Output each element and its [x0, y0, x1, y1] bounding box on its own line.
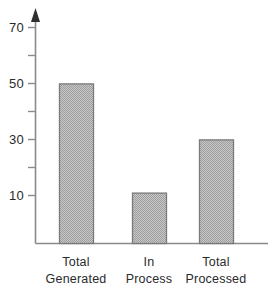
- x-axis-category-labels: Total Generated In Process Total Process…: [46, 255, 247, 286]
- y-tick-label-70: 70: [9, 20, 24, 35]
- category-label-2-line2: Processed: [186, 272, 247, 286]
- y-axis: [31, 8, 40, 244]
- y-tick-label-10: 10: [9, 188, 24, 203]
- y-tick-label-30: 30: [9, 132, 24, 147]
- bar-in-process[interactable]: [133, 193, 167, 243]
- bar-series: [60, 84, 234, 244]
- category-label-1-line1: In: [144, 255, 155, 269]
- bar-chart: 70 50 30 10 Total Generated In Process T…: [0, 0, 272, 291]
- y-tick-label-50: 50: [9, 76, 24, 91]
- category-label-2-line1: Total: [202, 255, 229, 269]
- y-axis-tick-labels: 70 50 30 10: [9, 20, 24, 203]
- bar-total-generated[interactable]: [60, 84, 94, 244]
- category-label-0-line1: Total: [62, 255, 89, 269]
- y-axis-arrow-icon: [31, 8, 40, 22]
- category-label-1-line2: Process: [126, 272, 173, 286]
- chart-canvas: 70 50 30 10 Total Generated In Process T…: [0, 0, 272, 291]
- category-label-0-line2: Generated: [46, 272, 107, 286]
- y-axis-ticks: [28, 28, 36, 196]
- bar-total-processed[interactable]: [200, 140, 234, 244]
